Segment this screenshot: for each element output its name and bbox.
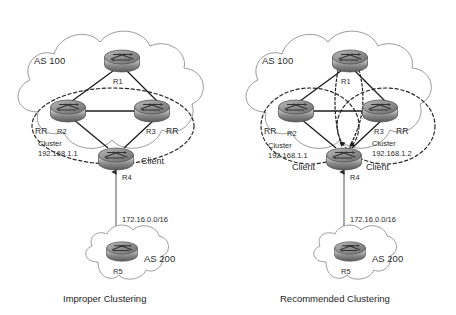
router-r3-right[interactable]	[363, 100, 398, 122]
router-label-r4-left: R4	[122, 173, 132, 182]
router-label-r1-left: R1	[113, 77, 123, 86]
router-r4-left[interactable]	[99, 148, 134, 170]
router-r1-right[interactable]	[333, 50, 368, 72]
cluster-id-right-1: 192.168.1.1	[268, 151, 308, 160]
client-label-right-2: Client	[366, 162, 390, 172]
cluster-name-right-1: Cluster	[268, 141, 292, 150]
router-r1-left[interactable]	[105, 50, 140, 72]
cluster-name-right-2: Cluster	[372, 139, 396, 148]
cluster-name-left: Cluster	[38, 139, 62, 148]
caption-right: Recommended Clustering	[280, 293, 390, 304]
as200-label-left: AS 200	[144, 253, 175, 264]
panel-improper-clustering: AS 100 R1 RR R2 R3 RR Cluster 192.168.1.…	[18, 31, 203, 304]
rr-label-r2-right: RR	[264, 126, 276, 136]
router-label-r3-right: R3	[374, 127, 384, 136]
wan-link-label-left: 172.16.0.0/16	[122, 215, 168, 224]
router-label-r5-right: R5	[341, 267, 351, 276]
panel-recommended-clustering: AS 100 R1 RR R2 R3 RR Cluster 192.168.1.…	[246, 31, 435, 304]
as100-label-left: AS 100	[34, 55, 65, 66]
router-r2-left[interactable]	[51, 100, 86, 122]
router-r5-right[interactable]	[335, 242, 366, 261]
cluster-id-right-2: 192.168.1.2	[372, 149, 412, 158]
cluster-id-left: 192.168.1.1	[38, 149, 78, 158]
as100-label-right: AS 100	[262, 55, 293, 66]
caption-left: Improper Clustering	[63, 293, 146, 304]
router-label-r2-left: R2	[57, 127, 67, 136]
router-label-r5-left: R5	[113, 267, 123, 276]
router-label-r3-left: R3	[146, 127, 156, 136]
router-label-r4-right: R4	[350, 173, 360, 182]
router-r4-right[interactable]	[327, 148, 362, 170]
rr-label-r3-right: RR	[396, 126, 408, 136]
router-r5-left[interactable]	[107, 242, 138, 261]
client-label-right-1: Client	[292, 162, 316, 172]
rr-label-r3-left: RR	[166, 126, 178, 136]
router-r3-left[interactable]	[135, 100, 170, 122]
rr-label-r2-left: RR	[35, 126, 47, 136]
as200-label-right: AS 200	[372, 253, 403, 264]
client-label-left: Client	[141, 156, 165, 166]
network-diagram: AS 100 R1 RR R2 R3 RR Cluster 192.168.1.…	[0, 0, 456, 315]
router-label-r2-right: R2	[287, 129, 297, 138]
figure-canvas: AS 100 R1 RR R2 R3 RR Cluster 192.168.1.…	[0, 0, 456, 315]
router-label-r1-right: R1	[341, 77, 351, 86]
router-r2-right[interactable]	[279, 100, 314, 122]
wan-link-label-right: 172.16.0.0/16	[350, 215, 396, 224]
